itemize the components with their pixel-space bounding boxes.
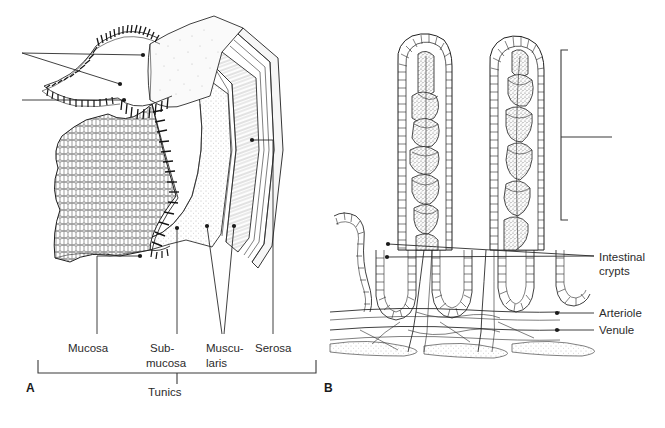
label-serosa: Serosa xyxy=(255,342,292,354)
intestinal-crypts xyxy=(334,212,590,320)
leader-dot-mucosa xyxy=(138,254,142,258)
leader-dot-arteriole xyxy=(555,311,559,315)
crypt-c xyxy=(498,250,534,312)
panel-a-upper-leaders xyxy=(22,53,145,102)
label-muscularis-line2: laris xyxy=(206,357,227,369)
label-submucosa-line1: Sub- xyxy=(150,342,174,354)
panel-b-illustration: Intestinal crypts Arteriole Venule B xyxy=(324,34,645,395)
leader-dot-serosa xyxy=(250,138,254,142)
figure-canvas: Mucosa Sub- mucosa Muscu- laris Serosa T… xyxy=(0,0,665,428)
panel-letter-a: A xyxy=(26,381,35,395)
villus-bracket xyxy=(561,50,612,220)
villus-left xyxy=(398,34,452,250)
label-tunics: Tunics xyxy=(148,386,182,398)
label-muscularis-line1: Muscu- xyxy=(206,342,244,354)
panel-a-tunic-labels: Mucosa Sub- mucosa Muscu- laris Serosa xyxy=(68,342,292,369)
leader-dot-mucosa-surface xyxy=(122,98,126,102)
crypt-right-partial xyxy=(556,250,590,306)
label-submucosa-line2: mucosa xyxy=(146,357,187,369)
crypt-b xyxy=(432,250,472,318)
panel-b-labels: Intestinal crypts Arteriole Venule xyxy=(599,251,645,336)
label-intestinal-crypts-line2: crypts xyxy=(599,265,630,277)
label-intestinal-crypts-line1: Intestinal xyxy=(599,251,645,263)
villus-right xyxy=(490,36,544,250)
leader-dot-muscularis-outer xyxy=(232,224,236,228)
leader-dot-submucosa xyxy=(175,226,179,230)
panel-letter-b: B xyxy=(324,381,333,395)
leader-dot-venule xyxy=(555,328,559,332)
crypt-a xyxy=(376,250,416,320)
label-mucosa: Mucosa xyxy=(68,342,109,354)
leader-dot-crypt-upper xyxy=(386,242,390,246)
leader-dot-muscularis-inner xyxy=(205,224,209,228)
label-venule: Venule xyxy=(599,324,634,336)
leader-dot-villi xyxy=(141,53,145,57)
crypt-far-left xyxy=(334,212,372,312)
leader-dot-epithelium xyxy=(118,82,122,86)
leader-dot-crypt-lower xyxy=(385,255,389,259)
label-arteriole: Arteriole xyxy=(599,307,642,319)
panel-a-illustration: Mucosa Sub- mucosa Muscu- laris Serosa T… xyxy=(22,16,316,398)
